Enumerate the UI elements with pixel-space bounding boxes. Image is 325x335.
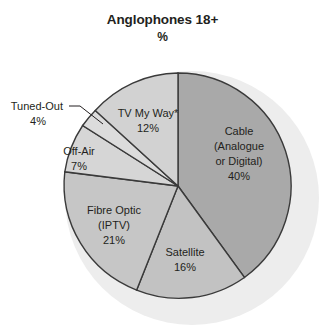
label-cable-line1: Cable (225, 125, 254, 137)
label-tuned-out-line1: Tuned-Out (11, 100, 63, 112)
label-satellite-line1: Satellite (165, 246, 204, 258)
pie-chart-figure: Anglophones 18+ % Cable (Analogue or Dig… (0, 0, 325, 335)
label-fibre-optic-value: 21% (103, 234, 125, 246)
label-off-air-value: 7% (71, 160, 87, 172)
label-satellite-value: 16% (174, 261, 196, 273)
label-cable-value: 40% (228, 170, 250, 182)
pie-svg: Cable (Analogue or Digital) 40% Satellit… (0, 0, 325, 335)
label-fibre-optic-line1: Fibre Optic (87, 204, 141, 216)
label-tv-my-way-value: 12% (137, 122, 159, 134)
label-cable-line3: or Digital) (215, 155, 262, 167)
label-fibre-optic-line2: (IPTV) (98, 219, 130, 231)
label-cable-line2: (Analogue (214, 140, 264, 152)
label-tv-my-way-line1: TV My Way* (118, 107, 179, 119)
label-tuned-out-value: 4% (30, 115, 46, 127)
label-off-air-line1: Off-Air (63, 145, 95, 157)
